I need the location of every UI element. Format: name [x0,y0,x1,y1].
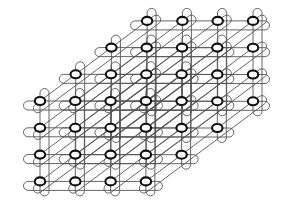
network-node [177,44,187,52]
network-node [105,124,115,132]
network-node [248,71,258,79]
network-node [248,44,258,52]
network-node [105,177,115,185]
network-node [35,151,45,159]
network-node [177,17,187,25]
network-node [70,124,80,132]
network-node [35,177,45,185]
network-node [176,70,186,78]
network-node [212,70,222,78]
network-node [176,97,186,105]
network-node [70,151,80,159]
network-node [213,17,223,25]
network-node [141,151,151,159]
network-node [142,17,152,25]
network-node [176,124,186,132]
network-node [35,97,45,105]
network-node [141,177,151,185]
network-node [212,97,222,105]
network-node [106,44,116,52]
network-node [71,70,81,78]
network-node [70,177,80,185]
network-node [212,124,222,132]
network-node [106,70,116,78]
network-node [248,97,258,105]
network-node [105,97,115,105]
network-node [35,124,45,132]
network-node [248,17,258,25]
network-node [141,70,151,78]
network-node [142,44,152,52]
network-node [105,151,115,159]
network-node [176,151,186,159]
network-node [212,44,222,52]
network-node [141,97,151,105]
network-node [70,97,80,105]
network-node [141,124,151,132]
torus-diagram [0,0,291,207]
